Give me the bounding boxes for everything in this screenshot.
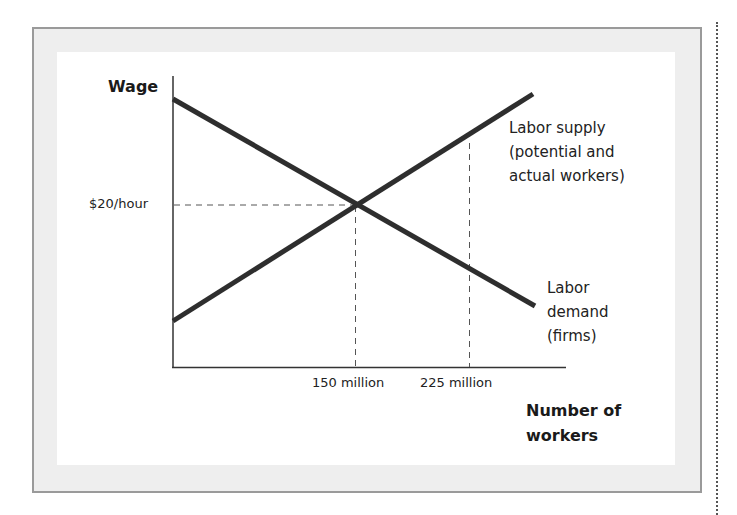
x-axis-title-line2: workers [526,423,621,448]
demand-label-line1: Labor [547,276,609,300]
labor-demand-curve [173,99,535,306]
y-axis-title: Wage [108,77,158,96]
x-axis-title-line1: Number of [526,398,621,423]
demand-label-line2: demand [547,300,609,324]
x-axis-title: Number of workers [526,398,621,448]
supply-label-line2: (potential and [509,140,625,164]
x-tick-label-225: 225 million [420,375,492,390]
y-tick-label: $20/hour [89,196,148,211]
supply-label-line1: Labor supply [509,116,625,140]
labor-supply-label: Labor supply (potential and actual worke… [509,116,625,188]
supply-label-line3: actual workers) [509,164,625,188]
x-tick-label-150: 150 million [312,375,384,390]
labor-demand-label: Labor demand (firms) [547,276,609,348]
demand-label-line3: (firms) [547,324,609,348]
